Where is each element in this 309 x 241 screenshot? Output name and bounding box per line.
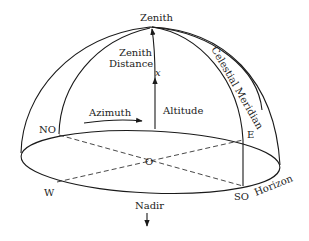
label-celestial-meridian: Celestial Meridian xyxy=(209,45,266,132)
vertical-circle-no xyxy=(59,28,150,134)
label-nadir: Nadir xyxy=(135,200,164,211)
label-w: W xyxy=(44,187,55,198)
azimuth-arrow xyxy=(84,120,142,123)
label-x-symbol: x xyxy=(155,67,161,78)
label-altitude: Altitude xyxy=(162,105,203,116)
label-zenith-distance-2: Distance xyxy=(109,58,153,69)
label-so: SO xyxy=(234,191,249,202)
label-e: E xyxy=(247,129,254,140)
label-zenith-distance-1: Zenith xyxy=(119,47,153,58)
label-zenith: Zenith xyxy=(140,12,174,23)
label-o: O xyxy=(145,156,153,167)
celestial-sphere-diagram: Zenith Zenith Distance x Celestial Merid… xyxy=(0,0,309,241)
label-azimuth: Azimuth xyxy=(88,107,132,118)
label-no: NO xyxy=(39,124,56,135)
